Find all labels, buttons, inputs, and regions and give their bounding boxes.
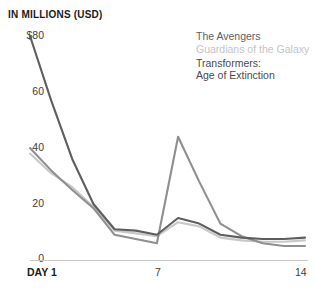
series-line-guardians (30, 154, 305, 242)
chart-plot-area (0, 0, 318, 292)
movie-revenue-line-chart: IN MILLIONS (USD) $80 60 40 20 0 DAY 1 7… (0, 0, 318, 292)
series-line-avengers (30, 36, 305, 239)
